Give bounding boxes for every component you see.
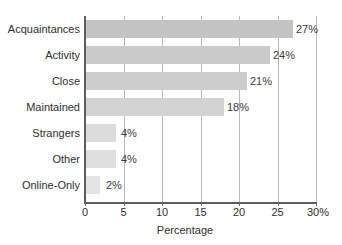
bar-strangers xyxy=(85,124,116,142)
bar-value-acquaintances: 27% xyxy=(296,23,318,35)
category-label-acquaintances: Acquaintances xyxy=(0,20,80,38)
x-tick-label-10: 10 xyxy=(156,206,168,218)
bar-online-only xyxy=(85,176,100,194)
category-label-close: Close xyxy=(0,72,80,90)
x-tick-label-0: 0 xyxy=(82,206,88,218)
bar-other xyxy=(85,150,116,168)
bar-value-maintained: 18% xyxy=(227,101,249,113)
gridline-25 xyxy=(278,16,279,202)
bar-maintained xyxy=(85,98,224,116)
category-label-maintained: Maintained xyxy=(0,98,80,116)
x-tick-label-5: 5 xyxy=(120,206,126,218)
x-tick-label-15: 15 xyxy=(194,206,206,218)
category-label-other: Other xyxy=(0,150,80,168)
plot-area: 27% 24% 21% 18% 4% 4% 2% xyxy=(85,16,316,202)
bar-value-other: 4% xyxy=(121,153,137,165)
gridline-30 xyxy=(316,16,317,202)
bar-acquaintances xyxy=(85,20,293,38)
x-tick-label-25: 25 xyxy=(271,206,283,218)
bar-value-online-only: 2% xyxy=(106,179,122,191)
y-axis-line xyxy=(84,16,86,203)
bar-activity xyxy=(85,46,270,64)
bar-value-strangers: 4% xyxy=(121,127,137,139)
x-tick-label-30: 30% xyxy=(307,206,329,218)
category-label-activity: Activity xyxy=(0,46,80,64)
bar-value-close: 21% xyxy=(250,75,272,87)
x-tick-label-20: 20 xyxy=(233,206,245,218)
category-label-strangers: Strangers xyxy=(0,124,80,142)
bar-value-activity: 24% xyxy=(273,49,295,61)
x-axis-title-text: Percentage xyxy=(157,224,213,236)
category-label-online-only: Online-Only xyxy=(0,176,80,194)
bar-close xyxy=(85,72,247,90)
bar-chart: 27% 24% 21% 18% 4% 4% 2% Acquain xyxy=(0,0,342,245)
x-axis-title: Percentage xyxy=(0,224,342,236)
